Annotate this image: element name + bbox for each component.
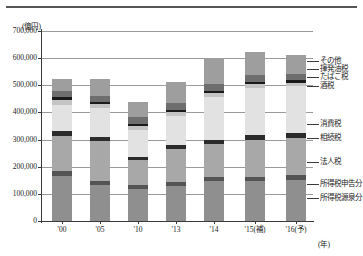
y-axis-tick-mark <box>38 194 41 195</box>
x-axis-tick-mark <box>296 221 297 224</box>
y-axis-tick-label: 600,000 <box>0 54 37 62</box>
bar-segment <box>166 145 186 149</box>
bar-segment <box>245 135 265 140</box>
legend-item: 法人税 <box>320 158 341 166</box>
x-axis-tick-label: '16(予) <box>274 226 318 234</box>
bar-segment <box>52 91 72 97</box>
bar-segment <box>204 93 224 97</box>
x-axis-tick-label: '15(補) <box>233 226 277 234</box>
bar-segment <box>166 82 186 103</box>
bar-segment <box>245 181 265 221</box>
bar-segment <box>52 97 72 99</box>
legend-leader-line <box>307 124 319 125</box>
legend-item: 所得税申告分 <box>320 180 362 188</box>
bar-segment <box>204 177 224 181</box>
bar-segment <box>128 160 148 184</box>
bar-segment <box>128 189 148 221</box>
bar-segment <box>166 110 186 112</box>
bar-segment <box>245 140 265 177</box>
bar-segment <box>204 144 224 177</box>
bar-segment <box>52 171 72 176</box>
bar-segment <box>90 104 110 108</box>
legend-leader-line <box>307 86 319 87</box>
bar-segment <box>286 133 306 139</box>
bar-segment <box>204 140 224 144</box>
bar-segment <box>245 52 265 75</box>
bar-segment <box>245 75 265 82</box>
bar-segment <box>166 149 186 182</box>
bar-segment <box>90 141 110 180</box>
bar-segment <box>52 131 72 136</box>
y-axis-tick-mark <box>38 140 41 141</box>
bar-segment <box>204 84 224 91</box>
y-axis-tick-mark <box>38 58 41 59</box>
bar-segment <box>52 105 72 132</box>
x-axis-tick-label: '14 <box>192 226 236 234</box>
bar-segment <box>166 112 186 116</box>
bar-segment <box>204 91 224 93</box>
bar-segment <box>128 130 148 157</box>
y-axis-tick-label: 700,000 <box>0 27 37 35</box>
y-axis-tick-mark <box>38 112 41 113</box>
y-axis-tick-label: 100,000 <box>0 190 37 198</box>
legend-item: 相続税 <box>320 134 341 142</box>
legend-item: 酒税 <box>320 82 334 90</box>
x-axis-tick-mark <box>214 221 215 224</box>
bar-segment <box>286 180 306 221</box>
bar-segment <box>52 136 72 171</box>
bar-segment <box>286 74 306 81</box>
y-axis-tick-mark <box>38 85 41 86</box>
x-axis-tick-mark <box>255 221 256 224</box>
legend-leader-line <box>307 184 319 185</box>
bar-segment <box>245 177 265 181</box>
y-axis-tick-mark <box>38 221 41 222</box>
x-axis-unit-label: (年) <box>318 238 330 249</box>
bar-segment <box>90 108 110 137</box>
legend-leader-line <box>307 198 319 199</box>
bar-segment <box>286 138 306 175</box>
chart-figure: (億円) 0100,000200,000300,000400,000500,00… <box>0 0 363 256</box>
bar-segment <box>90 79 110 96</box>
bar-segment <box>166 186 186 221</box>
bar-segment <box>128 124 148 126</box>
bar-segment <box>90 185 110 221</box>
bar-segment <box>204 58 224 84</box>
bar-series-area <box>42 31 313 221</box>
bar-segment <box>166 116 186 145</box>
bar-segment <box>166 182 186 187</box>
legend-leader-line <box>307 61 319 62</box>
y-axis-tick-mark <box>38 167 41 168</box>
bar-segment <box>90 102 110 104</box>
bar-segment <box>52 79 72 92</box>
y-axis-tick-label: 0 <box>0 217 37 225</box>
bar-segment <box>245 84 265 88</box>
y-axis-tick-label: 500,000 <box>0 81 37 89</box>
bar-segment <box>286 80 306 82</box>
bar-segment <box>52 100 72 105</box>
y-axis-tick-label: 400,000 <box>0 108 37 116</box>
legend-leader-line <box>307 138 319 139</box>
bar-segment <box>245 88 265 135</box>
bar-segment <box>128 157 148 160</box>
x-axis-tick-mark <box>138 221 139 224</box>
bar-segment <box>90 137 110 141</box>
top-divider-rule <box>6 6 357 8</box>
bar-segment <box>245 82 265 84</box>
y-axis-tick-label: 200,000 <box>0 163 37 171</box>
legend-item: たばこ税 <box>320 73 348 81</box>
bar-segment <box>286 175 306 180</box>
bar-segment <box>128 102 148 116</box>
bar-segment <box>128 117 148 124</box>
bar-segment <box>204 97 224 140</box>
bar-segment <box>166 103 186 110</box>
x-axis-tick-mark <box>100 221 101 224</box>
bar-segment <box>90 96 110 102</box>
legend-leader-line <box>307 77 319 78</box>
bar-segment <box>204 181 224 221</box>
x-axis-tick-mark <box>176 221 177 224</box>
legend-item: 所得税源泉分 <box>320 194 362 202</box>
y-axis-tick-label: 300,000 <box>0 136 37 144</box>
legend-item: 消費税 <box>320 120 341 128</box>
legend-leader-line <box>307 162 319 163</box>
bar-segment <box>286 83 306 87</box>
